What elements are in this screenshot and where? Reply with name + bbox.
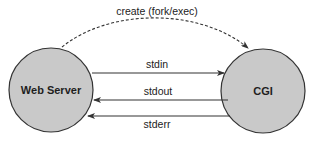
stderr-label: stderr bbox=[144, 118, 171, 130]
edge-stderr: stderr bbox=[88, 116, 230, 130]
node-cgi: CGI bbox=[221, 49, 305, 133]
web-server-label: Web Server bbox=[21, 84, 82, 96]
edge-stdout: stdout bbox=[94, 85, 228, 100]
cgi-label: CGI bbox=[253, 85, 273, 97]
edge-create: create (fork/exec) bbox=[62, 5, 248, 48]
create-arc bbox=[62, 18, 248, 48]
cgi-process-diagram: create (fork/exec) Web Server CGI stdin … bbox=[0, 0, 315, 141]
stdin-label: stdin bbox=[146, 58, 168, 70]
node-web-server: Web Server bbox=[9, 48, 93, 132]
create-label: create (fork/exec) bbox=[116, 5, 198, 17]
edge-stdin: stdin bbox=[92, 58, 224, 73]
stdout-label: stdout bbox=[144, 85, 173, 97]
